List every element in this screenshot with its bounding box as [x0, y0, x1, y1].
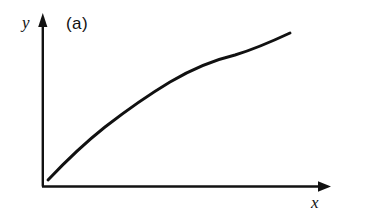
plot-canvas: y x (a): [0, 0, 367, 216]
y-axis-arrow-icon: [38, 13, 47, 27]
x-axis-arrow-icon: [318, 181, 331, 192]
data-curve: [48, 33, 290, 180]
panel-label: (a): [66, 14, 88, 33]
figure-panel: y x (a): [0, 0, 367, 216]
x-axis-label: x: [310, 193, 319, 212]
y-axis-label: y: [20, 13, 30, 32]
